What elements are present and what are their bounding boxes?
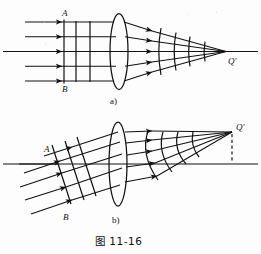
label-b-focus-point: Q' <box>236 123 244 132</box>
scan-speck <box>188 14 189 15</box>
panel-label-a: a) <box>110 97 117 106</box>
scan-speck <box>216 12 217 13</box>
scan-speck <box>45 44 46 45</box>
incident-plane-wavefronts-b <box>52 137 96 204</box>
label-b-lower-ray: B <box>63 213 69 222</box>
emergent-rays-a <box>124 22 226 81</box>
scan-speck <box>44 22 45 23</box>
label-a-focus-point: Q' <box>228 57 236 66</box>
panel-a-diagram <box>3 14 258 90</box>
emergent-rays-b <box>125 131 232 182</box>
optics-figure-svg <box>0 0 261 254</box>
label-b-upper-ray: A <box>44 145 50 154</box>
label-a-lower-ray: B <box>62 85 68 94</box>
panel-b-diagram <box>3 122 258 214</box>
panel-label-b: b) <box>112 216 120 225</box>
figure-caption: 图 11-16 <box>95 236 142 247</box>
figure-container: A B Q' a) A B Q' b) 图 11-16 <box>0 0 261 254</box>
label-a-upper-ray: A <box>62 9 68 18</box>
incident-rays-a <box>8 22 62 81</box>
